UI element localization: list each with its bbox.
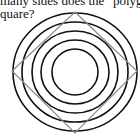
circles-group	[13, 13, 137, 131]
circle-5	[52, 49, 98, 95]
circle-3	[32, 31, 118, 113]
circle-2	[22, 22, 128, 122]
concentric-circles-figure	[0, 0, 140, 136]
